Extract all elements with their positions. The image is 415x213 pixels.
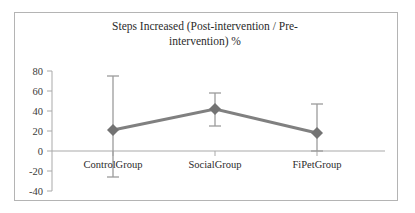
data-point-control-group[interactable] [107,124,119,136]
y-tick-label-80: 80 [33,66,44,77]
y-tick-label-minus40: -40 [29,186,43,197]
x-tick-label-control-group: ControlGroup [84,159,143,170]
data-point-fipet-group[interactable] [311,127,323,139]
y-axis-tick-labels: 80 60 40 20 0 -20 -40 [29,66,43,197]
chart-plot-area: 80 60 40 20 0 -20 -40 [15,13,399,202]
y-tick-label-0: 0 [38,146,43,157]
y-tick-label-40: 40 [33,106,44,117]
data-point-social-group[interactable] [209,103,221,115]
x-tick-label-social-group: SocialGroup [188,159,241,170]
x-axis-ticks [113,151,317,156]
x-tick-label-fipet-group: FiPetGroup [292,159,341,170]
chart-container: Steps Increased (Post-intervention / Pre… [14,12,398,201]
y-tick-label-60: 60 [33,86,44,97]
y-axis-ticks [47,71,52,191]
y-tick-label-minus20: -20 [29,166,43,177]
y-tick-label-20: 20 [33,126,44,137]
